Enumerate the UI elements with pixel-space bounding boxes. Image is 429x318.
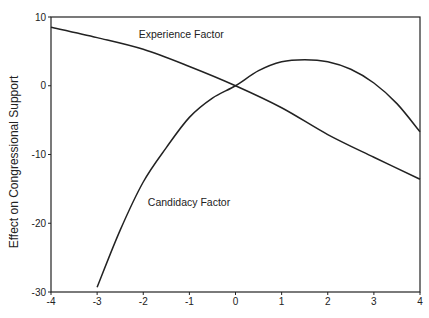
x-axis-ticks: -4-3-2-101234 xyxy=(47,292,424,307)
chart: 100-10-20-30 -4-3-2-101234 Experience Fa… xyxy=(0,0,429,318)
series-line-1 xyxy=(97,60,420,288)
y-tick-label: -30 xyxy=(32,287,47,298)
series-line-0 xyxy=(51,27,420,179)
y-axis-title: Effect on Congressional Support xyxy=(7,75,21,248)
series-label-0: Experience Factor xyxy=(139,28,225,40)
x-tick-label: -1 xyxy=(185,296,194,307)
series-labels: Experience FactorCandidacy Factor xyxy=(139,28,231,208)
y-tick-label: 10 xyxy=(35,12,47,23)
x-tick-label: -4 xyxy=(47,296,56,307)
y-axis-ticks: 100-10-20-30 xyxy=(32,12,51,298)
series-label-1: Candidacy Factor xyxy=(148,196,231,208)
x-tick-label: 4 xyxy=(417,296,423,307)
plot-frame xyxy=(51,17,420,292)
x-tick-label: 1 xyxy=(279,296,285,307)
y-tick-label: -10 xyxy=(32,149,47,160)
x-tick-label: -2 xyxy=(139,296,148,307)
x-tick-label: -3 xyxy=(93,296,102,307)
series-lines xyxy=(51,27,420,287)
y-tick-label: 0 xyxy=(40,80,46,91)
x-tick-label: 3 xyxy=(371,296,377,307)
x-tick-label: 0 xyxy=(233,296,239,307)
y-tick-label: -20 xyxy=(32,218,47,229)
x-tick-label: 2 xyxy=(325,296,331,307)
